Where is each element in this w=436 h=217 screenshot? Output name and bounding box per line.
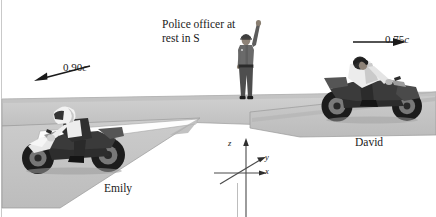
police-officer-caption: Police officer at rest in S (162, 18, 235, 45)
figure-canvas: z y x Police officer at rest in S 0.90c … (0, 0, 436, 217)
velocity-label-right: 0.75c (385, 33, 409, 46)
velocity-right-magnitude: 0.75 (385, 33, 404, 45)
david-motorcycle-figure (312, 56, 434, 126)
police-officer-caption-line2: rest in S (162, 32, 235, 46)
police-officer-caption-line1: Police officer at (162, 18, 235, 32)
coordinate-axes (214, 136, 276, 217)
emily-motorcycle-figure (12, 98, 136, 176)
axis-x-label: x (265, 166, 269, 176)
velocity-label-left: 0.90c (63, 61, 87, 74)
velocity-right-unit: c (404, 33, 409, 45)
emily-caption: Emily (104, 182, 132, 196)
velocity-left-magnitude: 0.90 (63, 61, 82, 73)
axis-y-label: y (265, 152, 269, 162)
axis-z-label: z (228, 138, 231, 148)
david-caption: David (355, 136, 383, 150)
velocity-left-unit: c (82, 61, 87, 73)
